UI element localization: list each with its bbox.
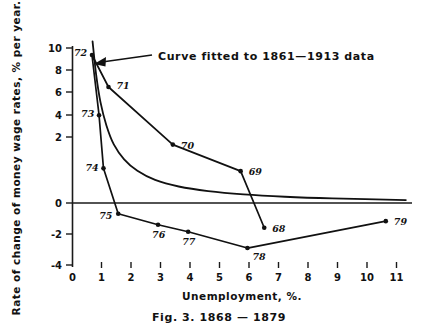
phillips-curve-chart: 10 8 6 4 2 0 -2 -4 0 1 2 3 4 bbox=[0, 0, 424, 334]
data-point-year-label: 75 bbox=[99, 210, 113, 221]
y-ticklabel-2: 2 bbox=[55, 132, 62, 143]
data-point-marker bbox=[245, 246, 250, 251]
x-ticklabel-7: 7 bbox=[275, 272, 282, 283]
data-point-marker bbox=[238, 169, 243, 174]
data-point-year-label: 71 bbox=[116, 80, 129, 91]
y-axis-title: Rate of change of money wage rates, % pe… bbox=[10, 1, 22, 316]
x-ticklabel-10: 10 bbox=[360, 272, 374, 283]
y-ticklabel-minus2: -2 bbox=[51, 229, 62, 240]
x-ticklabel-11: 11 bbox=[390, 272, 404, 283]
x-ticklabel-5: 5 bbox=[216, 272, 223, 283]
annotation-arrow bbox=[94, 55, 152, 67]
data-point-marker bbox=[186, 229, 191, 234]
x-ticklabel-6: 6 bbox=[246, 272, 253, 283]
data-point-marker bbox=[156, 222, 161, 227]
yearly-observations-path bbox=[92, 55, 386, 248]
y-ticklabel-minus4: -4 bbox=[51, 260, 62, 271]
x-ticklabel-8: 8 bbox=[305, 272, 312, 283]
data-point-marker bbox=[97, 113, 102, 118]
x-axis-title: Unemployment, %. bbox=[182, 290, 302, 302]
x-ticklabel-0: 0 bbox=[69, 272, 76, 283]
x-ticklabel-9: 9 bbox=[334, 272, 341, 283]
x-ticklabel-1: 1 bbox=[98, 272, 105, 283]
data-point-year-label: 73 bbox=[81, 108, 95, 119]
figure-caption: Fig. 3. 1868 — 1879 bbox=[152, 311, 286, 324]
data-point-marker bbox=[101, 166, 106, 171]
x-ticklabel-2: 2 bbox=[128, 272, 135, 283]
data-point-year-label: 74 bbox=[85, 162, 98, 173]
fitted-curve-annotation-label: Curve fitted to 1861—1913 data bbox=[158, 50, 375, 63]
data-point-year-label: 72 bbox=[74, 47, 88, 58]
data-point-year-label: 78 bbox=[252, 251, 266, 262]
data-point-marker bbox=[116, 211, 121, 216]
data-point-marker bbox=[383, 219, 388, 224]
x-ticklabel-3: 3 bbox=[157, 272, 164, 283]
x-ticklabel-4: 4 bbox=[187, 272, 194, 283]
arrow-shaft bbox=[102, 55, 152, 62]
data-point-marker bbox=[262, 225, 267, 230]
x-axis-ticks: 0 1 2 3 4 5 6 7 8 9 10 11 bbox=[69, 262, 403, 283]
figure-page: 10 8 6 4 2 0 -2 -4 0 1 2 3 4 bbox=[0, 0, 424, 334]
data-point-year-label: 79 bbox=[394, 216, 408, 227]
data-point-year-label: 70 bbox=[181, 140, 195, 151]
data-point-year-label: 77 bbox=[182, 236, 196, 247]
y-ticklabel-6: 6 bbox=[55, 87, 62, 98]
data-point-marker bbox=[171, 142, 176, 147]
data-point-layer: 686970717273747576777879 bbox=[74, 47, 407, 262]
data-point-marker bbox=[90, 53, 95, 58]
y-ticklabel-0: 0 bbox=[55, 198, 62, 209]
y-axis-ticks: 10 8 6 4 2 0 -2 -4 bbox=[48, 43, 72, 271]
data-point-year-label: 68 bbox=[272, 223, 286, 234]
y-ticklabel-8: 8 bbox=[55, 65, 62, 76]
data-point-year-label: 69 bbox=[249, 166, 263, 177]
data-point-marker bbox=[106, 85, 111, 90]
data-point-year-label: 76 bbox=[152, 229, 166, 240]
y-ticklabel-10: 10 bbox=[48, 43, 62, 54]
y-ticklabel-4: 4 bbox=[55, 110, 62, 121]
